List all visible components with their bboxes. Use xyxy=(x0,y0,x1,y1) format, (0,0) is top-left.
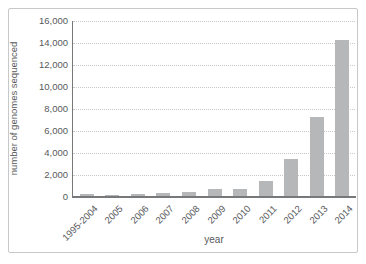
bar-series xyxy=(74,21,355,197)
bar-slot xyxy=(125,21,151,197)
bar-slot xyxy=(253,21,279,197)
y-tick-label: 10,000 xyxy=(8,82,68,92)
y-axis-line xyxy=(72,21,73,197)
y-tick-label: 2,000 xyxy=(8,170,68,180)
y-tick-label: 16,000 xyxy=(8,16,68,26)
bar-slot xyxy=(278,21,304,197)
bar-slot xyxy=(202,21,228,197)
bar-slot xyxy=(151,21,177,197)
x-axis-line xyxy=(72,196,356,198)
bar-slot xyxy=(329,21,355,197)
bar-2011 xyxy=(259,181,273,198)
y-tick-label: 12,000 xyxy=(8,60,68,70)
plot-area xyxy=(73,21,355,197)
bar-slot xyxy=(227,21,253,197)
x-axis-title: year xyxy=(73,234,355,245)
y-tick-label: 6,000 xyxy=(8,126,68,136)
y-tick-label: 0 xyxy=(8,192,68,202)
bar-slot xyxy=(100,21,126,197)
bar-2013 xyxy=(310,117,324,197)
y-tick-label: 4,000 xyxy=(8,148,68,158)
bar-2012 xyxy=(284,159,298,198)
bar-2014 xyxy=(335,40,349,197)
y-tick-label: 14,000 xyxy=(8,38,68,48)
bar-slot xyxy=(74,21,100,197)
bar-slot xyxy=(304,21,330,197)
y-tick-label: 8,000 xyxy=(8,104,68,114)
bar-slot xyxy=(176,21,202,197)
